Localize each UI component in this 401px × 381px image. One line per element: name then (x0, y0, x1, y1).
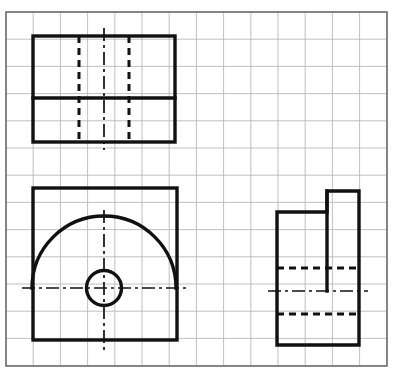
drawing-canvas (0, 0, 401, 381)
engineering-drawing-svg (0, 0, 401, 381)
